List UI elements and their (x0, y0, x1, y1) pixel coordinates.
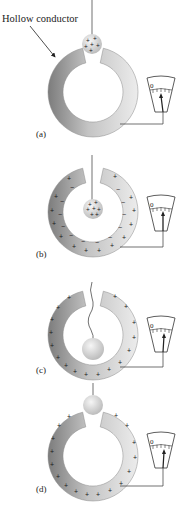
meter-zero: 0 (150, 438, 154, 446)
svg-text:−: − (69, 232, 73, 239)
panel-label-b: (b) (36, 249, 47, 259)
pointer-arrow (30, 26, 55, 57)
svg-text:+: + (49, 329, 53, 336)
svg-text:+: + (56, 304, 60, 311)
svg-text:+: + (50, 316, 54, 323)
svg-text:+: + (67, 175, 71, 182)
svg-text:+: + (127, 468, 131, 475)
svg-text:+: + (133, 454, 137, 461)
panel-label-a: (a) (36, 129, 46, 139)
panel-label-d: (d) (36, 484, 47, 494)
hollow-conductor-label: Hollow conductor (2, 13, 79, 24)
panel-c: +++ +++ +++ +++ +++ ++ 0 (c) (36, 282, 175, 380)
svg-text:+: + (110, 242, 114, 249)
svg-text:+: + (108, 487, 112, 494)
svg-text:+: + (124, 303, 128, 310)
svg-text:+: + (54, 193, 58, 200)
panel-label-c: (c) (36, 365, 46, 375)
svg-text:+: + (90, 211, 94, 218)
svg-text:+: + (132, 334, 136, 341)
svg-text:−: − (122, 211, 126, 218)
svg-text:+: + (96, 491, 100, 498)
svg-text:−: − (118, 224, 122, 231)
svg-text:−: − (58, 211, 62, 218)
svg-text:+: + (64, 482, 68, 489)
svg-text:+: + (73, 368, 77, 375)
svg-text:+: + (89, 47, 93, 54)
svg-text:−: − (70, 184, 74, 191)
svg-text:−: − (61, 223, 65, 230)
svg-text:+: + (50, 461, 54, 468)
svg-text:+: + (50, 448, 54, 455)
svg-text:+: + (95, 211, 99, 218)
svg-text:+: + (84, 247, 88, 254)
panel-d: +++ +++ +++ +++ +++ ++ 0 (d) (36, 383, 175, 501)
svg-text:+: + (52, 220, 56, 227)
meter-zero: 0 (150, 201, 154, 209)
svg-text:−: − (116, 186, 120, 193)
svg-text:+: + (57, 422, 61, 429)
svg-text:+: + (67, 294, 71, 301)
svg-text:−: − (121, 199, 125, 206)
svg-text:+: + (56, 473, 60, 480)
svg-text:−: − (81, 238, 85, 245)
meter-zero: 0 (150, 322, 154, 330)
svg-text:+: + (125, 422, 129, 429)
svg-text:−: − (95, 239, 99, 246)
svg-text:+: + (74, 488, 78, 495)
meter-zero: 0 (150, 82, 154, 90)
neutral-ball (83, 395, 103, 415)
neutral-ball (82, 338, 104, 360)
svg-text:+: + (127, 347, 131, 354)
svg-text:+: + (113, 293, 117, 300)
panel-a: Hollow conductor ++ +++ + 0 (a) (2, 0, 175, 139)
svg-text:+: + (132, 439, 136, 446)
svg-text:+: + (107, 366, 111, 373)
svg-text:+: + (132, 319, 136, 326)
svg-text:+: + (129, 194, 133, 201)
svg-text:−: − (60, 198, 64, 205)
panel-b: ++ +++ ++ +++ +++ +++ +++ ++ −−− −−− −−−… (36, 155, 175, 259)
svg-text:+: + (59, 233, 63, 240)
svg-text:+: + (84, 43, 88, 50)
svg-text:+: + (96, 371, 100, 378)
svg-text:+: + (50, 342, 54, 349)
svg-text:+: + (67, 413, 71, 420)
svg-text:+: + (129, 221, 133, 228)
svg-text:+: + (50, 207, 54, 214)
svg-text:+: + (113, 173, 117, 180)
svg-text:+: + (118, 359, 122, 366)
svg-text:−: − (108, 234, 112, 241)
svg-text:+: + (85, 491, 89, 498)
svg-text:+: + (132, 207, 136, 214)
svg-text:+: + (122, 234, 126, 241)
svg-text:+: + (51, 435, 55, 442)
svg-text:+: + (97, 247, 101, 254)
slack-thread (88, 282, 93, 340)
electrostatic-induction-diagram: Hollow conductor ++ +++ + 0 (a) ++ +++ +… (0, 0, 186, 510)
svg-text:+: + (96, 42, 100, 49)
svg-text:+: + (72, 243, 76, 250)
svg-text:+: + (84, 371, 88, 378)
svg-text:+: + (114, 412, 118, 419)
svg-text:+: + (56, 354, 60, 361)
svg-text:+: + (64, 362, 68, 369)
